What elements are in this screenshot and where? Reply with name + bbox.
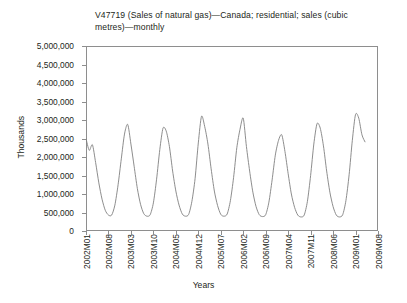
- x-axis-tick-mark: [266, 231, 267, 235]
- x-axis-tick-mark: [153, 231, 154, 235]
- x-axis-tick-mark: [243, 231, 244, 235]
- x-axis-tick-mark: [333, 231, 334, 235]
- x-axis-tick-label: 2003M03: [126, 234, 136, 269]
- x-axis-labels: 2002M012002M082003M032003M102004M052004M…: [0, 0, 407, 303]
- x-axis-tick-label: 2009M08: [374, 234, 384, 269]
- x-axis-tick-label: 2009M01: [351, 234, 361, 269]
- x-axis-tick-mark: [131, 231, 132, 235]
- x-axis-tick-mark: [221, 231, 222, 235]
- x-axis-tick-mark: [86, 231, 87, 235]
- x-axis-tick-mark: [288, 231, 289, 235]
- x-axis-tick-mark: [311, 231, 312, 235]
- x-axis-tick-label: 2008M06: [329, 234, 339, 269]
- x-axis-tick-label: 2002M08: [104, 234, 114, 269]
- x-axis-title: Years: [0, 280, 407, 290]
- x-axis-tick-label: 2005M07: [216, 234, 226, 269]
- x-axis-tick-label: 2006M09: [261, 234, 271, 269]
- x-axis-tick-label: 2007M11: [306, 234, 316, 268]
- x-axis-tick-label: 2002M01: [82, 234, 92, 269]
- x-axis-tick-mark: [198, 231, 199, 235]
- x-axis-tick-label: 2007M04: [284, 234, 294, 269]
- x-axis-tick-label: 2004M05: [171, 234, 181, 269]
- x-axis-tick-mark: [356, 231, 357, 235]
- x-axis-tick-label: 2004M12: [194, 234, 204, 269]
- x-axis-tick-mark: [378, 231, 379, 235]
- x-axis-tick-mark: [176, 231, 177, 235]
- x-axis-tick-mark: [108, 231, 109, 235]
- x-axis-tick-label: 2006M02: [239, 234, 249, 269]
- x-axis-tick-label: 2003M10: [149, 234, 159, 269]
- chart-container: V47719 (Sales of natural gas)—Canada; re…: [0, 0, 407, 303]
